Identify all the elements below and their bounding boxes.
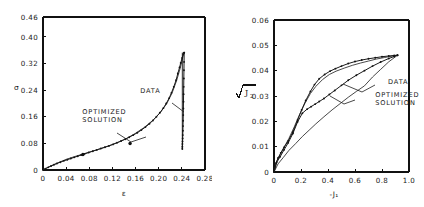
left-axes	[43, 17, 205, 170]
x-tick-label: 0.2	[295, 176, 307, 185]
x-tick-label: 0.24	[173, 174, 190, 183]
left-chart-svg: 00.080.160.240.320.400.46 00.040.080.120…	[0, 0, 212, 207]
data-point	[314, 103, 316, 105]
chart-panel-left: 00.080.160.240.320.400.46 00.040.080.120…	[0, 0, 212, 207]
right-data-leader	[343, 84, 375, 92]
right-y-axis-label-subscript: 2	[250, 93, 253, 99]
right-x-axis-label: -J₁	[329, 190, 338, 199]
y-tick-label: 0.40	[21, 33, 38, 42]
right-data-layer	[273, 54, 398, 173]
data-point	[347, 63, 349, 65]
y-tick-label: 0.24	[21, 86, 38, 95]
y-tick-label: 0	[264, 168, 269, 177]
data-point	[341, 84, 343, 86]
annotation-label: DATA	[140, 87, 160, 95]
data-point	[318, 101, 320, 103]
annotation-label: DATA	[388, 78, 408, 86]
data-point	[347, 79, 349, 81]
data-point	[183, 69, 185, 71]
data-point	[283, 149, 285, 151]
y-tick-label: 0.05	[252, 41, 269, 50]
data-point	[355, 74, 357, 76]
x-tick-label: 0.16	[127, 174, 144, 183]
data-point	[323, 98, 325, 100]
x-tick-label: 1.0	[403, 176, 415, 185]
y-tick-label: 0.02	[252, 117, 269, 126]
data-point	[183, 61, 185, 63]
right-optimized-leader	[330, 96, 355, 104]
highlight-point	[81, 153, 84, 156]
right-x-axis-label-text: -J₁	[329, 190, 338, 199]
data-point	[381, 56, 383, 58]
annotation-label: OPTIMIZED	[375, 91, 419, 99]
chart-panel-right: 00.010.020.030.040.050.06 00.20.40.60.81…	[212, 0, 424, 207]
data-point	[380, 61, 382, 63]
right-chart-svg: 00.010.020.030.040.050.06 00.20.40.60.81…	[212, 0, 424, 207]
y-tick-label: 0.32	[21, 59, 38, 68]
left-x-axis-label: ε	[122, 189, 126, 198]
series-opt-lower	[274, 55, 398, 172]
data-point	[310, 106, 312, 108]
right-y-axis-label-base: J	[244, 88, 248, 97]
x-tick-label: 0.6	[349, 176, 361, 185]
data-point	[183, 93, 185, 95]
data-point	[183, 78, 185, 80]
data-point	[341, 65, 343, 67]
data-point	[324, 74, 326, 76]
left-y-tick-labels: 00.080.160.240.320.400.46	[21, 13, 38, 175]
right-annotations: DATAOPTIMIZEDSOLUTION	[375, 78, 419, 107]
x-tick-label: 0	[41, 174, 46, 183]
data-point	[287, 142, 289, 144]
y-tick-label: 0	[33, 166, 38, 175]
data-point	[314, 84, 316, 86]
x-tick-label: 0.4	[322, 176, 334, 185]
data-point	[364, 70, 366, 72]
y-tick-label: 0.08	[21, 139, 38, 148]
data-point	[354, 61, 356, 63]
data-point	[329, 70, 331, 72]
data-point	[328, 94, 330, 96]
data-point	[374, 57, 376, 59]
y-tick-label: 0.46	[21, 13, 38, 22]
x-tick-label: 0.04	[58, 174, 75, 183]
y-tick-label: 0.01	[252, 142, 269, 151]
annotation-label: SOLUTION	[375, 99, 415, 107]
left-y-axis-label: σ	[14, 83, 19, 92]
left-x-tick-labels: 00.040.080.120.160.200.240.28	[41, 174, 212, 183]
data-point	[361, 59, 363, 61]
data-point	[368, 58, 370, 60]
data-point	[183, 86, 185, 88]
data-point	[306, 108, 308, 110]
highlight-point	[128, 142, 131, 145]
series-data-lower	[274, 55, 398, 172]
data-point	[334, 89, 336, 91]
x-tick-label: 0.28	[196, 174, 212, 183]
left-annotations: DATAOPTIMIZEDSOLUTION	[82, 87, 160, 124]
right-x-tick-labels: 00.20.40.60.81.0	[272, 176, 416, 185]
data-point	[318, 78, 320, 80]
data-point	[183, 101, 185, 103]
data-point	[388, 58, 390, 60]
data-point	[279, 156, 281, 158]
series-data-upper	[274, 55, 398, 172]
x-tick-label: 0.20	[150, 174, 167, 183]
annotation-label: SOLUTION	[82, 116, 122, 124]
data-point	[301, 112, 303, 114]
x-tick-label: 0.8	[376, 176, 388, 185]
y-tick-label: 0.04	[252, 66, 269, 75]
data-point	[276, 161, 278, 163]
x-tick-label: 0.12	[104, 174, 121, 183]
y-tick-label: 0.16	[21, 112, 38, 121]
y-tick-label: 0.03	[252, 92, 269, 101]
series-opt-upper	[274, 55, 398, 172]
y-tick-label: 0.06	[252, 16, 269, 25]
data-point	[372, 65, 374, 67]
data-point	[334, 68, 336, 70]
x-tick-label: 0.08	[81, 174, 98, 183]
data-point	[292, 133, 294, 135]
right-y-tick-labels: 00.010.020.030.040.050.06	[252, 16, 269, 177]
figure-container: 00.080.160.240.320.400.46 00.040.080.120…	[0, 0, 424, 207]
data-point	[297, 121, 299, 123]
x-tick-label: 0	[272, 176, 277, 185]
